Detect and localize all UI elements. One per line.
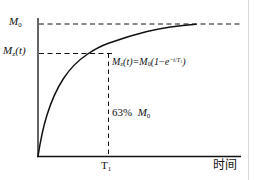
percent-annotation-text: 63% M0	[112, 106, 150, 118]
percent-annotation: 63% M0	[112, 107, 150, 119]
x-tick-label-t1: T1	[101, 160, 111, 172]
equation-annotation: Mz(t)=M0(1−e−t/T1)	[112, 57, 185, 68]
y-axis-label-mz: Mz(t)	[3, 45, 26, 57]
recovery-curve	[38, 24, 196, 156]
y-axis-label-mz-text: Mz(t)	[3, 44, 26, 56]
y-axis-label-m0-text: M0	[9, 15, 22, 27]
plot-canvas	[0, 0, 255, 180]
y-axis-label-m0: M0	[9, 16, 22, 28]
x-tick-label-t1-text: T1	[101, 159, 111, 171]
page-edge-line	[248, 0, 249, 180]
equation-annotation-text: Mz(t)=M0(1−e−t/T1)	[112, 56, 185, 67]
t1-relaxation-figure: M0 Mz(t) Mz(t)=M0(1−e−t/T1) 63% M0 T1 时间	[0, 0, 255, 180]
x-axis-title: 时间	[213, 159, 237, 171]
